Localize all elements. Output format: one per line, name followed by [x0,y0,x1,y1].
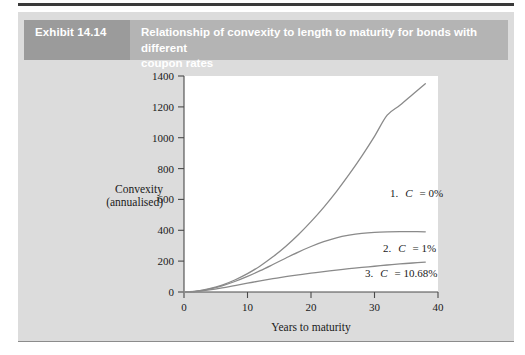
curve-label-2-prefix: 2. [383,242,392,254]
curve-coupon-1 [184,232,425,292]
x-axis-tick-labels: 0 10 20 30 40 [181,301,444,313]
y-axis-title-line1: Convexity [115,183,163,196]
y-tick-label: 1400 [152,70,175,82]
curve-label-3-symbol: C [380,267,388,279]
x-tick-label: 40 [433,301,445,313]
curve-label-1-symbol: C [405,187,413,199]
convexity-line-chart: 0 200 400 600 800 1000 1200 1400 0 10 [18,12,514,342]
curve-label-1-value: = 0% [420,187,444,199]
curve-label-1: 1. C = 0% [390,183,443,200]
curve-label-3-value: = 10.68% [395,267,438,279]
y-axis-title: Convexity (annualised) [106,183,163,209]
curve-label-1-prefix: 1. [390,187,399,199]
x-tick-label: 20 [306,301,318,313]
exhibit-figure: Exhibit 14.14 Relationship of convexity … [0,0,525,355]
x-tick-label: 0 [181,301,187,313]
curve-label-3-prefix: 3. [365,267,374,279]
y-tick-label: 400 [158,224,175,236]
curve-label-2-value: = 1% [413,242,437,254]
x-axis-ticks [184,292,438,298]
x-tick-label: 30 [369,301,381,313]
y-tick-label: 1200 [152,101,175,113]
curve-label-3: 3. C = 10.68% [365,263,437,280]
top-rule [18,3,514,6]
curve-label-2: 2. C = 1% [383,238,436,255]
y-tick-label: 200 [158,255,175,267]
x-axis-title: Years to maturity [271,321,351,334]
curve-label-2-symbol: C [398,242,406,254]
y-tick-label: 0 [169,286,175,298]
y-axis-title-line2: (annualised) [106,196,163,209]
x-tick-label: 10 [242,301,254,313]
y-tick-label: 800 [158,163,175,175]
y-tick-label: 1000 [152,132,175,144]
figure-panel: Exhibit 14.14 Relationship of convexity … [18,12,514,342]
y-axis-ticks [178,76,184,292]
